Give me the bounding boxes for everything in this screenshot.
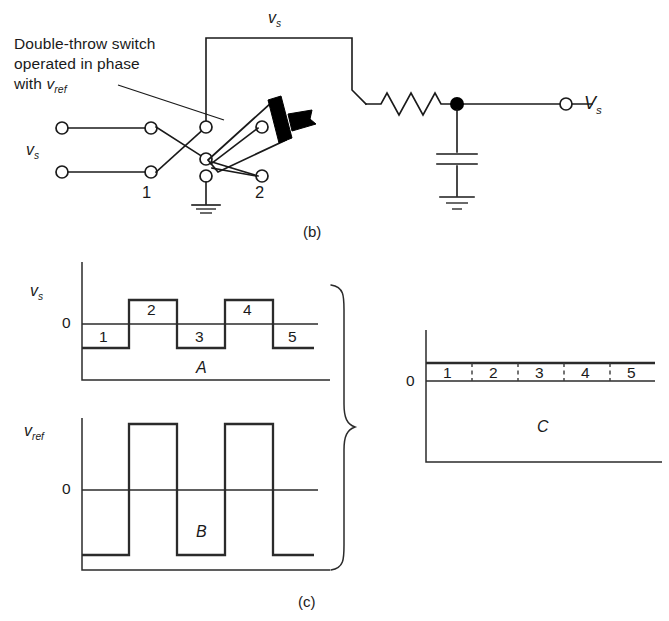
resistor	[366, 93, 455, 115]
figure-root: Double-throw switch operated in phase wi…	[0, 0, 669, 621]
part-label-b: (b)	[303, 222, 321, 241]
panel-c-segment-5: 5	[627, 363, 636, 383]
panel-a-segment-3: 3	[195, 327, 204, 347]
panel-c-letter: C	[537, 417, 549, 437]
switch-lever-body[interactable]	[208, 96, 316, 172]
top-wire-label-var: v	[268, 9, 276, 26]
switch-position-1: 1	[142, 182, 151, 203]
panel-a-y-label-sub: s	[38, 291, 43, 302]
panel-b-y-label-var: v	[24, 422, 32, 439]
panel-b-letter: B	[196, 522, 207, 542]
waveform-panel-c	[426, 330, 662, 462]
input-label-sub: s	[34, 150, 39, 161]
panel-c-segment-4: 4	[581, 363, 590, 383]
top-wire-label: vs	[268, 8, 281, 30]
panel-a-y-label-var: v	[30, 282, 38, 299]
switch-position-2: 2	[255, 182, 264, 203]
annotation-line-3-prefix: with	[14, 75, 46, 92]
annotation-vref-sub: ref	[54, 83, 67, 95]
panel-b-zero-label: 0	[62, 479, 71, 499]
panel-c-segment-3: 3	[535, 363, 544, 383]
annotation-line-2: operated in phase	[14, 54, 140, 74]
panel-a-segment-2: 2	[147, 300, 156, 320]
output-label: Vs	[584, 92, 602, 117]
top-wire-label-sub: s	[276, 18, 281, 29]
capacitor-ground	[440, 197, 474, 209]
input-label-var: v	[26, 141, 34, 158]
output-label-sub: s	[596, 104, 602, 116]
panel-c-zero-label: 0	[406, 371, 415, 391]
panel-a-zero-label: 0	[62, 313, 71, 333]
output-terminal	[560, 98, 572, 110]
switch-contacts	[200, 121, 268, 182]
input-label: vs	[26, 140, 39, 162]
annotation-line-3: with vref	[14, 74, 67, 97]
grouping-brace	[331, 285, 355, 570]
panel-c-segment-2: 2	[489, 363, 498, 383]
panel-a-segment-1: 1	[99, 327, 108, 347]
panel-b-y-label-sub: ref	[32, 431, 44, 442]
annotation-line-1: Double-throw switch	[14, 34, 155, 54]
panel-a-letter: A	[196, 358, 207, 378]
switch-ground	[192, 182, 220, 213]
part-label-c: (c)	[298, 592, 316, 611]
panel-a-y-label: vs	[30, 281, 43, 303]
panel-a-segment-4: 4	[243, 300, 252, 320]
panel-c-segment-1: 1	[443, 363, 452, 383]
panel-a-segment-5: 5	[288, 327, 297, 347]
switch-crossover-wires	[156, 127, 206, 172]
panel-b-y-label: vref	[24, 421, 44, 443]
capacitor	[437, 110, 477, 196]
annotation-leader	[118, 85, 224, 120]
figure-canvas	[0, 0, 669, 621]
output-label-var: V	[584, 93, 596, 113]
input-terminals	[56, 122, 157, 178]
waveform-panel-b	[82, 418, 330, 570]
